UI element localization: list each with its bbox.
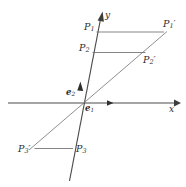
figure-container: P1 P2 P3 P1′ P2′ P3′ e1 e2 x y (0, 0, 186, 187)
label-x-axis: x (169, 105, 174, 114)
label-y-axis: y (105, 11, 110, 20)
x-axis-unit-marker (107, 100, 114, 106)
label-p2: P2 (79, 43, 90, 54)
label-p1: P1 (84, 22, 95, 33)
transformed-axis-line (29, 32, 167, 151)
y-axis-unit-marker (77, 81, 83, 91)
label-e2: e2 (66, 88, 75, 98)
label-p2-prime: P2′ (143, 55, 156, 66)
y-axis-arrowhead (98, 12, 104, 22)
label-e1: e1 (85, 104, 94, 114)
label-p3-prime: P3′ (18, 144, 31, 155)
label-p3: P3 (76, 144, 87, 155)
label-p1-prime: P1′ (163, 19, 176, 30)
x-axis-arrowhead (174, 100, 181, 107)
